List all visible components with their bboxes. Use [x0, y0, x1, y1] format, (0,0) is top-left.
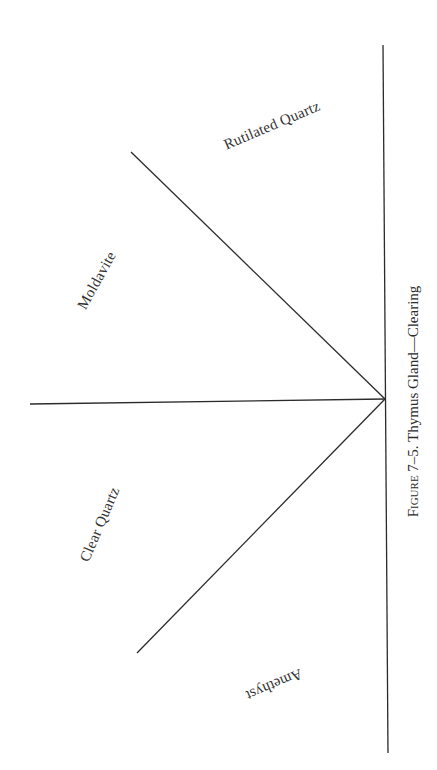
lower-diagonal-line	[137, 399, 385, 653]
caption-text: 7–5. Thymus Gland—Clearing	[405, 286, 421, 476]
figure-page: Rutilated Quartz Moldavite Clear Quartz …	[0, 0, 437, 770]
figure-caption: Figure 7–5. Thymus Gland—Clearing	[406, 272, 421, 532]
crystal-grid-diagram	[0, 0, 437, 770]
upper-diagonal-line	[131, 152, 385, 399]
caption-figure-prefix: Figure	[405, 475, 421, 517]
horizontal-line	[30, 399, 385, 404]
